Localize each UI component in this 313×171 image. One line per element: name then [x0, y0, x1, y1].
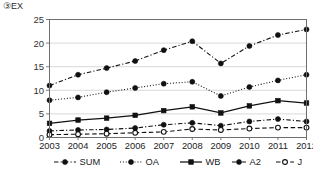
legend-label: WB — [206, 157, 221, 167]
y-tick-label: 25 — [33, 14, 44, 25]
y-tick-label: 5 — [39, 108, 44, 119]
legend-marker — [283, 160, 288, 165]
data-point — [276, 125, 281, 130]
legend-marker — [237, 160, 242, 165]
series-line-a2 — [50, 119, 307, 131]
legend-label: J — [298, 157, 303, 167]
data-point — [104, 116, 109, 121]
data-point — [104, 66, 109, 71]
data-point — [276, 98, 281, 103]
data-point — [104, 90, 109, 95]
data-point — [161, 129, 166, 134]
legend-label: SUM — [80, 157, 101, 167]
series-line-oa — [50, 75, 307, 100]
data-point — [218, 128, 223, 133]
chart-legend: SUMOAWBA2J — [54, 157, 302, 167]
series-sum — [47, 27, 309, 88]
line-chart-plot: 0510152025 20032004200520062007200820092… — [0, 0, 313, 171]
data-point — [247, 104, 252, 109]
data-point — [161, 48, 166, 53]
x-axis-ticks: 2003200420052006200720082009201020112012 — [39, 138, 313, 152]
data-point — [190, 105, 195, 110]
data-point — [133, 59, 138, 64]
legend-item-wb[interactable]: WB — [180, 157, 220, 167]
data-point — [133, 113, 138, 118]
legend-item-oa[interactable]: OA — [120, 157, 160, 167]
data-point — [76, 95, 81, 100]
data-point — [76, 118, 81, 123]
data-point — [247, 43, 252, 48]
series-line-sum — [50, 29, 307, 85]
data-point — [218, 93, 223, 98]
series-wb — [47, 98, 309, 125]
legend-label: OA — [146, 157, 160, 167]
data-point — [247, 119, 252, 124]
x-tick-label: 2003 — [39, 141, 60, 151]
legend-marker — [189, 160, 194, 165]
data-point — [247, 85, 252, 90]
x-tick-label: 2008 — [182, 141, 203, 151]
x-tick-label: 2006 — [125, 141, 146, 151]
data-point — [133, 126, 138, 131]
x-tick-label: 2012 — [296, 141, 313, 151]
data-point — [190, 127, 195, 132]
x-tick-label: 2005 — [96, 141, 117, 151]
data-point — [219, 111, 224, 116]
data-point — [218, 61, 223, 66]
data-point — [275, 117, 280, 122]
x-tick-label: 2004 — [68, 141, 89, 151]
x-tick-label: 2009 — [210, 141, 231, 151]
y-tick-label: 15 — [33, 61, 44, 72]
data-point — [133, 130, 138, 135]
series-line-j — [50, 128, 307, 135]
data-point — [275, 33, 280, 38]
data-point — [76, 132, 81, 137]
data-point — [161, 81, 166, 86]
data-point — [275, 78, 280, 83]
data-point — [247, 126, 252, 131]
x-tick-label: 2011 — [268, 141, 288, 151]
data-point — [104, 131, 109, 136]
data-point — [133, 85, 138, 90]
legend-label: A2 — [250, 157, 261, 167]
data-point — [190, 39, 195, 44]
data-point — [190, 120, 195, 125]
x-tick-label: 2010 — [239, 141, 260, 151]
legend-item-j[interactable]: J — [276, 157, 302, 167]
data-point — [190, 79, 195, 84]
legend-item-sum[interactable]: SUM — [54, 157, 100, 167]
data-point — [161, 122, 166, 127]
series-j — [47, 125, 309, 137]
data-point — [161, 108, 166, 113]
chart-figure: ③EX 0510152025 2003200420052006200720082… — [0, 0, 313, 171]
legend-marker — [129, 160, 134, 165]
y-tick-label: 10 — [33, 85, 44, 96]
legend-marker — [63, 160, 68, 165]
series-oa — [47, 72, 309, 102]
y-tick-label: 20 — [33, 38, 44, 49]
gridlines — [50, 20, 307, 114]
data-point — [76, 72, 81, 77]
x-tick-label: 2007 — [153, 141, 174, 151]
legend-item-a2[interactable]: A2 — [232, 157, 261, 167]
